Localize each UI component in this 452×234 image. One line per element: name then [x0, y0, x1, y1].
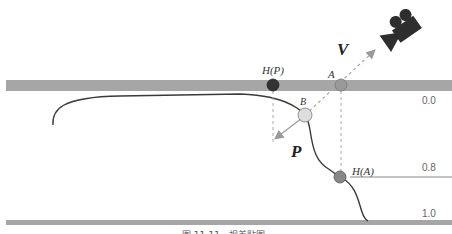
- parallax-diagram: [0, 0, 452, 234]
- figure-caption: 图 11-11 视差贴图: [182, 228, 265, 234]
- point-b: [298, 108, 312, 122]
- point-a: [335, 79, 347, 91]
- point-hp: [267, 79, 279, 91]
- label-hp: H(P): [262, 64, 284, 76]
- movie-camera-icon: [375, 7, 423, 52]
- point-ha: [334, 171, 346, 183]
- depth-tick-1.0: 1.0: [422, 208, 436, 219]
- depth-tick-0.0: 0.0: [422, 95, 436, 106]
- label-b: B: [300, 96, 306, 107]
- label-a: A: [328, 68, 335, 80]
- height-curve: [53, 94, 368, 221]
- label-v: V: [337, 40, 348, 60]
- label-p: P: [291, 142, 301, 162]
- depth-tick-0.8: 0.8: [422, 162, 436, 173]
- label-ha: H(A): [352, 165, 374, 177]
- offset-vector-p: [276, 118, 302, 138]
